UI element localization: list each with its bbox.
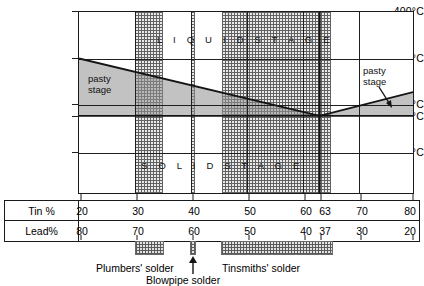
pasty-left-line2: stage	[88, 84, 111, 95]
pasty-right-arrow-icon	[375, 86, 399, 112]
blowpipe-arrow-icon	[187, 256, 201, 275]
tinsmiths-solder-caption: Tinsmiths' solder	[222, 262, 300, 274]
solder-bar-plumbers	[135, 241, 164, 255]
table-tick-marks	[0, 194, 424, 242]
phase-diagram-plot: L I Q U I D S T A G E S O L I D S T A G …	[78, 11, 414, 194]
solder-bar-blowpipe	[190, 241, 196, 255]
liquid-stage-label: L I Q U I D S T A G E	[157, 34, 334, 45]
plot-inner: L I Q U I D S T A G E S O L I D S T A G …	[79, 12, 413, 193]
pasty-stage-left-label: pasty stage	[88, 74, 111, 95]
solid-stage-label: S O L I D S T A G E	[141, 160, 304, 171]
blowpipe-solder-caption: Blowpipe solder	[146, 274, 220, 286]
pasty-stage-right-label: pasty stage	[363, 66, 386, 87]
pasty-right-line1: pasty	[363, 65, 386, 76]
plumbers-solder-caption: Plumbers' solder	[96, 262, 174, 274]
solder-range-bars: Plumbers' solder Tinsmiths' solder Blowp…	[0, 241, 424, 284]
solder-bar-tinsmiths	[221, 241, 333, 255]
pasty-left-line1: pasty	[88, 73, 111, 84]
pasty-right-line2: stage	[363, 76, 386, 87]
